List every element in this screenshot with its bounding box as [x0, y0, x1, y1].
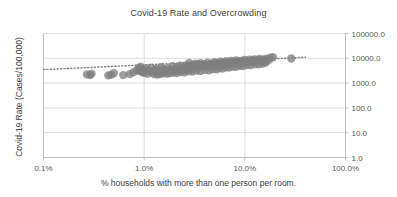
- y-tick-label: 10000.0: [352, 54, 381, 63]
- scatter-point: [87, 69, 95, 77]
- tick-labels: 100000.010000.01000.0100.010.01.00.1%1.0…: [34, 30, 385, 173]
- plot-area: 100000.010000.01000.0100.010.01.00.1%1.0…: [0, 0, 397, 197]
- scatter-point: [110, 69, 118, 77]
- covid-overcrowding-scatter-chart: Covid-19 Rate and Overcrowding 100000.01…: [0, 0, 397, 197]
- gridlines: [44, 34, 346, 158]
- y-tick-label: 1.0: [352, 154, 364, 163]
- y-axis-title: Covid-19 Rate (Cases/100,000): [14, 32, 24, 162]
- y-tick-label: 100000.0: [352, 30, 386, 39]
- scatter-point: [269, 53, 277, 61]
- x-tick-label: 1.0%: [135, 164, 153, 173]
- y-tick-label: 10.0: [352, 129, 368, 138]
- axis-spines: [44, 34, 349, 161]
- x-axis-title: % households with more than one person p…: [0, 178, 397, 188]
- x-tick-label: 0.1%: [34, 164, 52, 173]
- y-tick-label: 1000.0: [352, 79, 377, 88]
- x-tick-label: 100.0%: [332, 164, 359, 173]
- y-tick-label: 100.0: [352, 104, 373, 113]
- x-tick-label: 10.0%: [233, 164, 256, 173]
